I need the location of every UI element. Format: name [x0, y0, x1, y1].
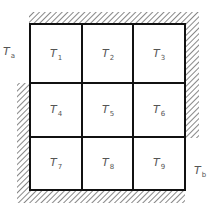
bottom-wall-hatch [17, 190, 185, 203]
cell-label-t7: T7 [50, 157, 62, 171]
ambient-label-tb: Tb [194, 165, 206, 179]
left-wall-hatch [17, 83, 30, 203]
cell-label-t3: T3 [153, 48, 165, 62]
cell-label-t4: T4 [50, 104, 62, 118]
cell-label-t1: T1 [50, 48, 62, 62]
cell-label-t9: T9 [153, 157, 165, 171]
cell-label-t2: T2 [102, 48, 114, 62]
diagram-canvas: T1 T2 T3 T4 T5 T6 T7 T8 T9 Ta Tb [0, 0, 215, 218]
ambient-label-ta: Ta [3, 46, 15, 60]
top-wall-hatch [29, 12, 199, 24]
cell-label-t6: T6 [153, 104, 165, 118]
cell-label-t8: T8 [102, 157, 114, 171]
right-wall-hatch [186, 12, 199, 138]
cell-label-t5: T5 [102, 104, 114, 118]
